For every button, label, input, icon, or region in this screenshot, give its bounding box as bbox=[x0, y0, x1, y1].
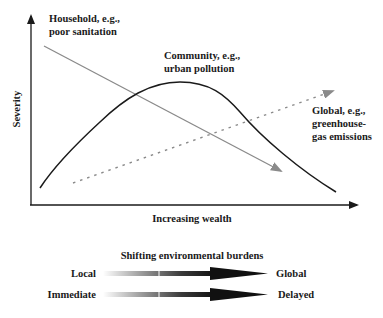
legend-row-local-global: Local Global bbox=[71, 267, 307, 280]
gradient-arrow-icon bbox=[103, 267, 268, 280]
legend-title: Shifting environmental burdens bbox=[121, 250, 264, 261]
legend-to-delayed: Delayed bbox=[278, 289, 314, 300]
gradient-arrow-icon bbox=[103, 288, 268, 301]
global-label-line-3: gas emissions bbox=[312, 131, 372, 142]
global-curve bbox=[73, 91, 333, 183]
legend-row-immediate-delayed: Immediate Delayed bbox=[48, 288, 315, 301]
community-label: Community, e.g., urban pollution bbox=[164, 50, 243, 74]
global-label: Global, e.g., greenhouse- gas emissions bbox=[312, 105, 372, 142]
legend-from-immediate: Immediate bbox=[48, 289, 97, 300]
global-label-line-2: greenhouse- bbox=[312, 118, 367, 129]
household-label: Household, e.g., poor sanitation bbox=[49, 13, 123, 37]
legend-from-local: Local bbox=[71, 268, 96, 279]
community-curve bbox=[40, 82, 336, 192]
community-label-line-2: urban pollution bbox=[164, 63, 234, 74]
x-axis-label: Increasing wealth bbox=[152, 213, 232, 224]
global-label-line-1: Global, e.g., bbox=[312, 105, 366, 116]
y-axis-label: Severity bbox=[11, 90, 22, 127]
household-curve bbox=[44, 46, 281, 171]
environmental-burdens-figure: Severity Increasing wealth Household, e.… bbox=[0, 0, 383, 318]
household-label-line-2: poor sanitation bbox=[49, 26, 117, 37]
household-label-line-1: Household, e.g., bbox=[49, 13, 120, 24]
legend-to-global: Global bbox=[276, 268, 306, 279]
community-label-line-1: Community, e.g., bbox=[164, 50, 241, 61]
